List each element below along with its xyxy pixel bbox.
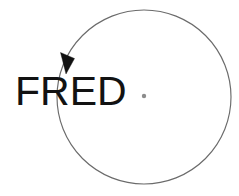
- diagram-canvas: FRED: [0, 0, 239, 196]
- center-dot: [142, 94, 146, 98]
- circular-motion-diagram: FRED: [0, 0, 239, 196]
- object-label-fred: FRED: [15, 68, 127, 114]
